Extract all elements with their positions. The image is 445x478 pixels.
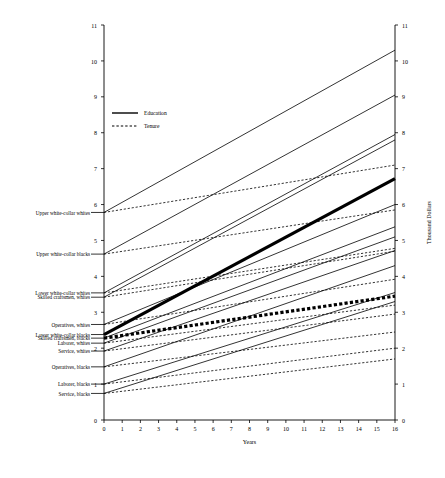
y-tick-label-right: 6 — [402, 202, 405, 208]
y-tick-label-right: 2 — [402, 346, 405, 352]
y-tick-label-left: 8 — [94, 130, 97, 136]
y-tick-label-right: 11 — [402, 23, 408, 29]
series-line — [104, 266, 395, 367]
y-tick-label-left: 10 — [91, 59, 97, 65]
series-group-label: Upper white-collar blacks — [36, 251, 90, 257]
x-axis-title: Years — [243, 439, 257, 445]
x-tick-label: 6 — [212, 426, 215, 432]
chart-root: 0011223344556677889910101111012345678910… — [0, 0, 445, 478]
y-tick-label-right: 3 — [402, 310, 405, 316]
y-tick-label-left: 1 — [94, 382, 97, 388]
x-tick-label: 12 — [319, 426, 325, 432]
series-line — [104, 165, 395, 212]
x-tick-label: 8 — [248, 426, 251, 432]
x-tick-label: 3 — [157, 426, 160, 432]
y-tick-label-right: 10 — [402, 59, 408, 65]
legend-label: Tenure — [144, 123, 160, 129]
legend-label: Education — [144, 110, 167, 116]
y-tick-label-right: 5 — [402, 238, 405, 244]
earnings-line-chart: 0011223344556677889910101111012345678910… — [0, 0, 445, 478]
y-tick-label-right: 9 — [402, 94, 405, 100]
series-line — [104, 135, 395, 293]
y-tick-label-right: 8 — [402, 130, 405, 136]
series-line — [104, 227, 395, 338]
y-tick-label-right: 0 — [402, 418, 405, 424]
y-tick-label-left: 0 — [94, 418, 97, 424]
x-tick-label: 2 — [139, 426, 142, 432]
series-group-label: Operatives, blacks — [52, 364, 90, 370]
x-tick-label: 4 — [175, 426, 178, 432]
x-tick-label: 0 — [103, 426, 106, 432]
series-line — [104, 251, 395, 352]
series-group-label: Skilled craftsmen, whites — [37, 294, 90, 300]
y-tick-label-left: 5 — [94, 238, 97, 244]
series-group-label: Operatives, whites — [51, 322, 90, 328]
series-line — [104, 210, 395, 254]
y-axis-title-right: Thousand Dollars — [426, 200, 432, 243]
series-group-label: Laborer, whites — [58, 340, 90, 346]
x-tick-label: 15 — [374, 426, 380, 432]
x-tick-label: 11 — [301, 426, 307, 432]
x-tick-label: 14 — [356, 426, 362, 432]
series-group-label: Service, blacks — [59, 391, 90, 397]
x-tick-label: 7 — [230, 426, 233, 432]
y-tick-label-left: 6 — [94, 202, 97, 208]
y-tick-label-left: 9 — [94, 94, 97, 100]
series-line — [104, 348, 395, 384]
series-group-label: Upper white-collar whites — [36, 210, 90, 216]
x-tick-label: 13 — [337, 426, 343, 432]
x-tick-label: 10 — [283, 426, 289, 432]
y-tick-label-left: 7 — [94, 166, 97, 172]
series-group-label: Laborer, blacks — [58, 381, 90, 387]
y-tick-label-left: 4 — [94, 274, 97, 280]
series-line — [104, 296, 395, 338]
series-line — [104, 359, 395, 393]
series-line — [104, 140, 395, 297]
y-tick-label-left: 3 — [94, 310, 97, 316]
series-line — [104, 302, 395, 394]
series-line — [104, 50, 395, 212]
y-tick-label-right: 7 — [402, 166, 405, 172]
x-tick-label: 9 — [266, 426, 269, 432]
y-tick-label-right: 1 — [402, 382, 405, 388]
series-group-label: Service, whites — [58, 348, 90, 354]
x-tick-label: 5 — [193, 426, 196, 432]
x-tick-label: 1 — [121, 426, 124, 432]
y-tick-label-left: 11 — [91, 23, 97, 29]
series-line — [104, 95, 395, 254]
x-tick-label: 16 — [392, 426, 398, 432]
y-tick-label-right: 4 — [402, 274, 405, 280]
